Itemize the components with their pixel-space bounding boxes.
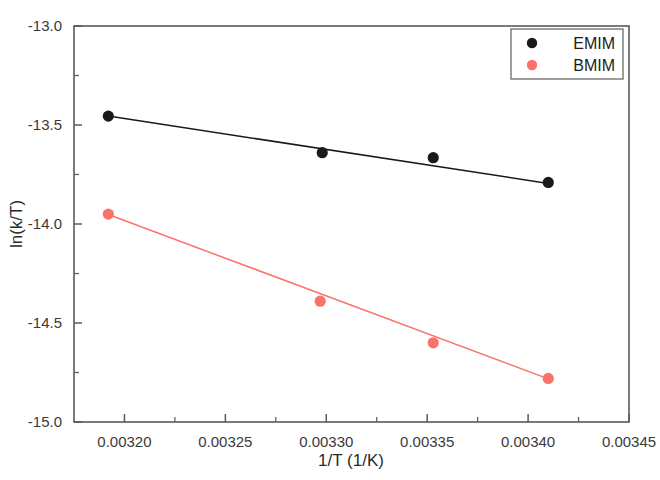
- x-tick-label: 0.00345: [602, 433, 656, 450]
- data-point-bmim: [103, 209, 114, 220]
- legend-label-bmim: BMIM: [573, 57, 615, 74]
- data-point-emim: [103, 110, 114, 121]
- data-point-bmim: [428, 337, 439, 348]
- y-tick-label: -13.5: [28, 116, 62, 133]
- x-tick-label: 0.00340: [501, 433, 555, 450]
- legend-marker-bmim: [527, 60, 537, 70]
- data-point-emim: [317, 147, 328, 158]
- legend-label-emim: EMIM: [573, 35, 615, 52]
- arrhenius-plot: 0.003200.003250.003300.003350.003400.003…: [0, 0, 660, 480]
- chart-legend: EMIM BMIM: [511, 29, 623, 79]
- y-axis-title: ln(k/T): [7, 200, 26, 248]
- x-axis-title: 1/T (1/K): [318, 451, 384, 470]
- data-point-bmim: [315, 296, 326, 307]
- y-tick-label: -13.0: [28, 17, 62, 34]
- data-point-bmim: [543, 373, 554, 384]
- chart-page: 0.003200.003250.003300.003350.003400.003…: [0, 0, 660, 480]
- y-tick-label: -14.5: [28, 314, 62, 331]
- legend-marker-emim: [527, 38, 537, 48]
- data-point-emim: [543, 177, 554, 188]
- x-tick-label: 0.00325: [198, 433, 252, 450]
- x-tick-label: 0.00320: [97, 433, 151, 450]
- y-tick-label: -14.0: [28, 215, 62, 232]
- x-tick-label: 0.00335: [400, 433, 454, 450]
- data-point-emim: [428, 152, 439, 163]
- y-tick-label: -15.0: [28, 413, 62, 430]
- x-tick-label: 0.00330: [299, 433, 353, 450]
